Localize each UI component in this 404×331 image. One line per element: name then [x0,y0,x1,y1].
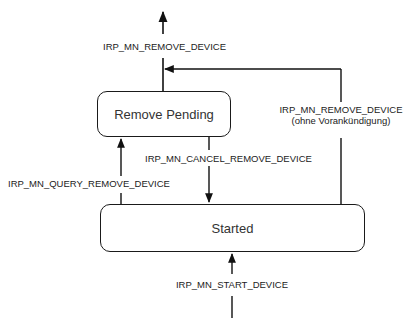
state-label: Remove Pending [114,107,214,122]
transition-label-main: IRP_MN_REMOVE_DEVICE [276,104,404,115]
transition-label-cancel-remove: IRP_MN_CANCEL_REMOVE_DEVICE [145,153,305,164]
transition-label-query-remove: IRP_MN_QUERY_REMOVE_DEVICE [8,178,160,189]
state-label: Started [212,221,254,236]
transition-label-start-device: IRP_MN_START_DEVICE [172,279,292,290]
transition-label-remove-device: IRP_MN_REMOVE_DEVICE [103,41,223,52]
state-started: Started [100,204,365,252]
transition-label-note: (ohne Vorankündigung) [276,115,404,126]
state-remove-pending: Remove Pending [97,91,231,137]
transition-label-surprise-remove: IRP_MN_REMOVE_DEVICE (ohne Vorankündigun… [276,104,404,126]
